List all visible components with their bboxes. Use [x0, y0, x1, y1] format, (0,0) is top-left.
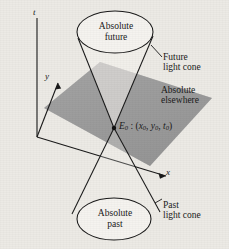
absolute-past-line1: Absolute [85, 208, 145, 219]
t-axis-label: t [33, 8, 36, 18]
light-cone-figure: t y x Absolute future Absolute past Futu… [0, 0, 229, 249]
future-light-cone-label: Future light cone [163, 52, 201, 73]
future-cone-leader-line [151, 45, 162, 57]
y-axis-label: y [45, 72, 49, 82]
x-axis-arrowhead [158, 173, 166, 179]
past-cone-leader-line [155, 199, 162, 203]
absolute-elsewhere-label: Absolute elsewhere [161, 85, 199, 106]
x-axis-label: x [166, 168, 170, 178]
absolute-future-line1: Absolute [86, 21, 146, 32]
absolute-past-line2: past [85, 219, 145, 230]
absolute-elsewhere-line1: Absolute [161, 85, 199, 95]
past-light-cone-line2: light cone [163, 210, 201, 220]
event-label: E0 : (x0, y0, t0) [119, 121, 172, 131]
event-close-paren: ) [169, 121, 172, 131]
absolute-elsewhere-line2: elsewhere [161, 95, 199, 105]
future-light-cone-line1: Future [163, 52, 201, 62]
y-axis-arrowhead [55, 83, 61, 90]
past-light-cone-label: Past light cone [163, 200, 201, 221]
absolute-past-label: Absolute past [85, 208, 145, 229]
past-light-cone-line1: Past [163, 200, 201, 210]
future-light-cone-line2: light cone [163, 62, 201, 72]
absolute-future-label: Absolute future [86, 21, 146, 42]
event-separator: : ( [128, 121, 139, 131]
absolute-future-line2: future [86, 32, 146, 43]
event-point-marker [112, 126, 116, 130]
